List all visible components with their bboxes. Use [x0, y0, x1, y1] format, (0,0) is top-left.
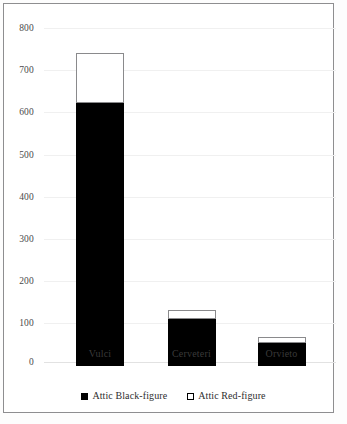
- x-label-cerveteri: Cerveteri: [147, 348, 237, 359]
- y-tick-400: 400: [4, 193, 34, 203]
- bar-vulci[interactable]: [76, 28, 124, 366]
- x-label-orvieto: Orvieto: [237, 348, 327, 359]
- y-axis-labels: 800 700 600 500 400 300 200 100 0: [4, 24, 40, 366]
- y-tick-200: 200: [4, 277, 34, 287]
- y-tick-600: 600: [4, 108, 34, 118]
- y-tick-800: 800: [4, 24, 34, 34]
- y-tick-300: 300: [4, 235, 34, 245]
- y-tick-0: 0: [4, 358, 34, 368]
- plot-area: [44, 24, 336, 366]
- legend-label-black-figure: Attic Black-figure: [92, 391, 167, 401]
- y-tick-700: 700: [4, 66, 34, 76]
- filled-square-icon: [81, 393, 88, 400]
- chart-frame: 800 700 600 500 400 300 200 100 0: [3, 3, 334, 413]
- chart-figure: 800 700 600 500 400 300 200 100 0: [0, 0, 347, 424]
- legend-label-red-figure: Attic Red-figure: [198, 391, 265, 401]
- y-tick-100: 100: [4, 319, 34, 329]
- bar-orvieto[interactable]: [258, 28, 306, 366]
- bar-cerveteri[interactable]: [168, 28, 216, 366]
- bar-segment-vulci-red-figure[interactable]: [76, 53, 124, 103]
- open-square-icon: [187, 393, 194, 400]
- chart-legend: Attic Black-figure Attic Red-figure: [0, 391, 347, 401]
- legend-item-red-figure[interactable]: Attic Red-figure: [187, 391, 265, 401]
- bar-segment-vulci-black-figure[interactable]: [76, 103, 124, 366]
- bar-segment-cerveteri-red-figure[interactable]: [168, 310, 216, 319]
- legend-item-black-figure[interactable]: Attic Black-figure: [81, 391, 167, 401]
- y-tick-500: 500: [4, 151, 34, 161]
- x-label-vulci: Vulci: [55, 348, 145, 359]
